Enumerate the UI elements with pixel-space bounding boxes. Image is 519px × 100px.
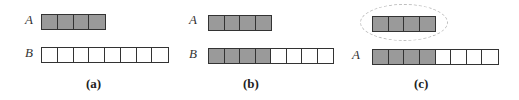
array-cell [74, 48, 90, 62]
caption-b: (b) [243, 76, 259, 92]
row-label-a: A [189, 12, 197, 28]
panel-a: A B (a) [0, 0, 173, 100]
array-cell [256, 49, 272, 63]
row-label-b: B [189, 46, 197, 62]
array-cell [271, 49, 287, 63]
array-cell [225, 16, 241, 30]
array-cell [152, 48, 168, 62]
array-temp [372, 16, 436, 32]
array-cell [58, 48, 74, 62]
array-cell [209, 16, 225, 30]
array-cell [121, 48, 137, 62]
array-cell [240, 16, 256, 30]
array-cell [42, 48, 58, 62]
array-cell [318, 49, 333, 63]
array-cell [302, 49, 318, 63]
array-cell [89, 48, 105, 62]
array-cell [467, 50, 483, 64]
array-cell [389, 50, 405, 64]
row-label-a: A [352, 47, 360, 63]
array-a [372, 49, 499, 65]
array-cell [404, 17, 420, 31]
array-a [208, 15, 272, 31]
array-cell [225, 49, 241, 63]
array-cell [451, 50, 467, 64]
array-cell [420, 17, 435, 31]
array-b [41, 47, 169, 63]
array-cell [42, 15, 58, 29]
array-cell [404, 50, 420, 64]
array-cell [482, 50, 498, 64]
row-label-a: A [25, 12, 33, 28]
array-cell [287, 49, 303, 63]
panel-c: A (c) [340, 0, 519, 100]
array-cell [240, 49, 256, 63]
array-cell [137, 48, 153, 62]
row-label-b: B [25, 45, 33, 61]
array-cell [58, 15, 74, 29]
array-b [208, 48, 334, 64]
panel-b: A B (b) [170, 0, 343, 100]
array-cell [373, 50, 389, 64]
array-cell [436, 50, 452, 64]
array-cell [373, 17, 389, 31]
array-cell [89, 15, 105, 29]
caption-a: (a) [86, 76, 101, 92]
array-cell [209, 49, 225, 63]
array-cell [389, 17, 405, 31]
array-cell [74, 15, 90, 29]
caption-c: (c) [414, 76, 428, 92]
array-cell [256, 16, 271, 30]
array-cell [105, 48, 121, 62]
array-cell [420, 50, 436, 64]
array-a [41, 14, 106, 30]
